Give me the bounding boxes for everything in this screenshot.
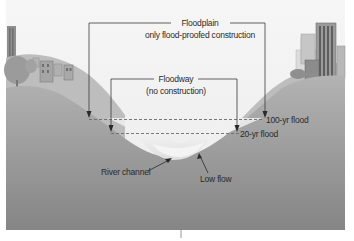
- floodway-note: (no construction): [146, 87, 206, 96]
- river-channel-label: River channel: [101, 168, 150, 177]
- floodplain-note: only flood-proofed construction: [145, 31, 255, 40]
- low-flow-label: Low flow: [200, 175, 231, 184]
- floodway-label: Floodway: [159, 75, 194, 84]
- flood-20yr-label: 20-yr flood: [240, 130, 278, 139]
- flood-100yr-label: 100-yr flood: [266, 116, 309, 125]
- floodplain-label: Floodplain: [181, 19, 218, 28]
- city-buildings-left: [7, 26, 16, 60]
